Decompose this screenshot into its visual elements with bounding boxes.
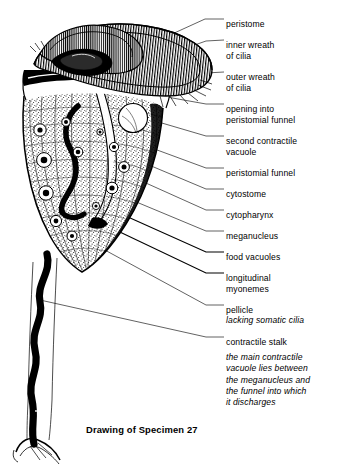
label-opening-into-peristomial-funnel: opening intoperistomial funnel <box>226 104 295 125</box>
label-text: myonemes <box>226 284 271 295</box>
label-second-contractile-vacuole: second contractilevacuole <box>226 136 297 157</box>
label-text: peristomial funnel <box>226 168 295 178</box>
label-pellicle-sub: lacking somatic cilia <box>226 315 304 326</box>
label-text: opening into <box>226 104 274 114</box>
label-text: lacking somatic cilia <box>226 315 304 325</box>
label-text: vacuole <box>226 147 297 158</box>
figure-caption: Drawing of Specimen 27 <box>86 424 198 435</box>
label-text: of cilia <box>226 51 275 62</box>
label-text: of cilia <box>226 83 275 94</box>
label-text: inner wreath <box>226 40 275 50</box>
zooid-body <box>14 90 172 280</box>
label-text: cytopharynx <box>226 210 273 220</box>
label-text: pellicle <box>226 305 253 315</box>
label-inner-wreath-of-cilia: inner wreathof cilia <box>226 40 275 61</box>
second-contractile-vacuole <box>119 104 148 134</box>
note-line: it discharges <box>226 397 346 408</box>
note-line: the meganucleus and <box>226 375 346 386</box>
label-food-vacuoles: food vacuoles <box>226 252 280 263</box>
label-text: food vacuoles <box>226 252 280 262</box>
label-meganucleus: meganucleus <box>226 231 278 242</box>
label-text: contractile stalk <box>226 337 287 347</box>
label-text: longitudinal <box>226 273 271 283</box>
label-outer-wreath-of-cilia: outer wreathof cilia <box>226 72 275 93</box>
label-text: peristomial funnel <box>226 115 295 126</box>
contractile-stalk <box>13 254 60 464</box>
label-pellicle: pellicle <box>226 305 253 316</box>
label-text: peristome <box>226 19 265 29</box>
label-peristome: peristome <box>226 19 265 30</box>
note-line: the main contractile <box>226 352 346 363</box>
label-text: meganucleus <box>226 231 278 241</box>
label-text: outer wreath <box>226 72 275 82</box>
label-peristomial-funnel: peristomial funnel <box>226 168 295 179</box>
label-text: second contractile <box>226 136 297 146</box>
label-contractile-stalk: contractile stalk <box>226 337 287 348</box>
label-text: cytostome <box>226 189 266 199</box>
label-cytostome: cytostome <box>226 189 266 200</box>
label-cytopharynx: cytopharynx <box>226 210 273 221</box>
label-longitudinal-myonemes: longitudinalmyonemes <box>226 273 271 294</box>
note-line: vacuole lies between <box>226 363 346 374</box>
main-contractile-vacuole-note: the main contractilevacuole lies between… <box>226 352 346 408</box>
note-line: the funnel into which <box>226 386 346 397</box>
